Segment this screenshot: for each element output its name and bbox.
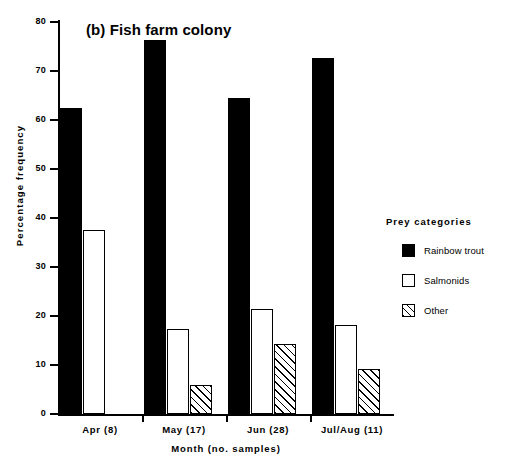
bar-jun-salmonids (251, 309, 273, 414)
x-group-label: May (17) (142, 424, 226, 435)
y-tick (50, 266, 58, 268)
legend-rows: Rainbow troutSalmonidsOther (386, 244, 512, 317)
bar-may-rainbow-trout (144, 40, 166, 414)
y-tick (50, 21, 58, 23)
y-tick-label: 10 (20, 359, 46, 369)
y-tick (50, 168, 58, 170)
y-tick (50, 70, 58, 72)
y-tick (50, 217, 58, 219)
bar-apr-rainbow-trout (60, 108, 82, 414)
bar-jun-rainbow-trout (228, 98, 250, 414)
legend-title: Prey categories (386, 216, 512, 227)
x-group-label: Jun (28) (226, 424, 310, 435)
x-group-label: Apr (8) (58, 424, 142, 435)
y-tick (50, 119, 58, 121)
bar-jul-aug-rainbow-trout (312, 58, 334, 414)
legend-swatch-icon (402, 244, 415, 257)
bars-layer (58, 22, 394, 414)
legend-item-salmonids: Salmonids (402, 274, 512, 287)
y-tick (50, 315, 58, 317)
y-axis-title: Percentage frequency (14, 111, 25, 261)
legend: Prey categories Rainbow troutSalmonidsOt… (386, 216, 512, 334)
bar-jun-other (274, 344, 296, 414)
x-axis-title: Month (no. samples) (58, 443, 394, 454)
legend-item-rainbow-trout: Rainbow trout (402, 244, 512, 257)
chart-figure: (b) Fish farm colony Percentage frequenc… (0, 0, 512, 474)
bar-may-salmonids (167, 329, 189, 414)
y-tick-label: 70 (20, 65, 46, 75)
y-tick-label: 40 (20, 212, 46, 222)
y-tick-label: 30 (20, 261, 46, 271)
bar-jul-aug-other (358, 369, 380, 414)
bar-may-other (190, 385, 212, 414)
y-tick-label: 80 (20, 16, 46, 26)
bar-jul-aug-salmonids (335, 325, 357, 414)
legend-swatch-icon (402, 274, 415, 287)
legend-label: Rainbow trout (424, 245, 484, 256)
legend-swatch-icon (402, 304, 415, 317)
x-group-label: Jul/Aug (11) (310, 424, 394, 435)
bar-apr-salmonids (83, 230, 105, 414)
legend-label: Salmonids (424, 275, 469, 286)
y-tick (50, 364, 58, 366)
y-tick-label: 60 (20, 114, 46, 124)
legend-label: Other (424, 305, 448, 316)
y-tick (50, 413, 58, 415)
x-tick (226, 416, 228, 422)
x-tick (142, 416, 144, 422)
y-tick-label: 50 (20, 163, 46, 173)
y-tick-label: 20 (20, 310, 46, 320)
legend-item-other: Other (402, 304, 512, 317)
x-tick (310, 416, 312, 422)
y-tick-label: 0 (20, 408, 46, 418)
